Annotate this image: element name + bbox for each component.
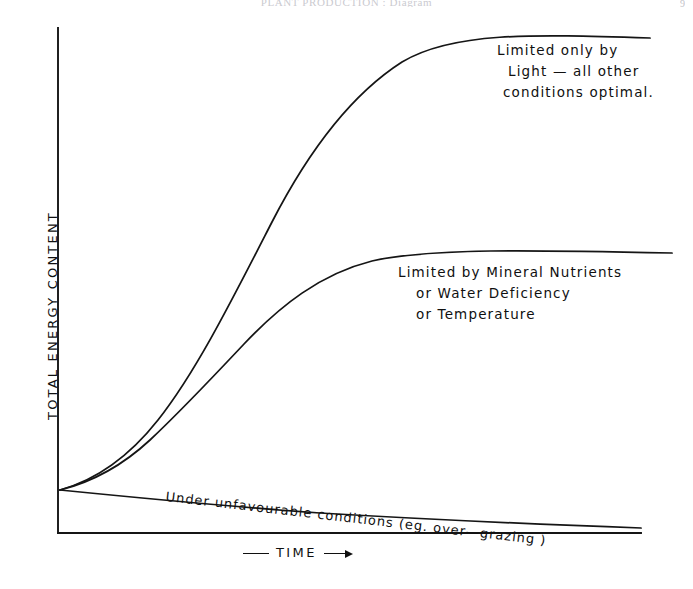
- right-arrow-icon: [345, 550, 353, 558]
- annotation-light-limited: Limited only by Light — all other condit…: [497, 40, 654, 103]
- annotation-light-line-3: conditions optimal.: [497, 82, 654, 103]
- annotation-mineral-line-2: or Water Deficiency: [398, 283, 622, 304]
- x-axis-label-group: TIME: [243, 545, 353, 560]
- figure-container: PLANT PRODUCTION : Diagram 9 Limited onl…: [0, 0, 693, 589]
- leading-dash-icon: [243, 553, 269, 554]
- right-arrow-tail-icon: [324, 553, 346, 554]
- x-axis-label-text: TIME: [276, 545, 317, 560]
- annotation-light-line-2: Light — all other: [497, 61, 654, 82]
- annotation-light-line-1: Limited only by: [497, 40, 654, 61]
- annotation-mineral-line-1: Limited by Mineral Nutrients: [398, 262, 622, 283]
- annotation-mineral-limited: Limited by Mineral Nutrients or Water De…: [398, 262, 622, 325]
- annotation-mineral-line-3: or Temperature: [398, 304, 622, 325]
- y-axis-label: TOTAL ENERGY CONTENT: [45, 186, 60, 446]
